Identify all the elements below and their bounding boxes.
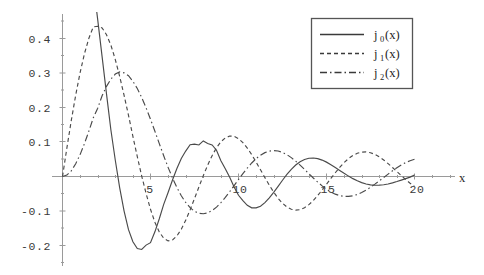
- legend-label-j0-arg: (x): [385, 28, 400, 42]
- legend-label-j2-arg: (x): [385, 66, 400, 80]
- y-tick-label-0: 0.4: [28, 33, 51, 46]
- legend-label-j1-base: j: [373, 47, 377, 61]
- y-tick-label-3: 0.1: [28, 136, 51, 149]
- bessel-plot-figure: 0.4 0.3 0.2 0.1 -0.1 -0.2 5 10 15 20 x j…: [0, 0, 484, 275]
- legend-label-j0-sub: 0: [380, 34, 384, 44]
- y-tick-label-2: 0.2: [28, 102, 51, 115]
- legend-label-j2-base: j: [373, 66, 377, 80]
- legend-label-j1-arg: (x): [385, 47, 400, 61]
- y-tick-label-5: -0.2: [21, 240, 51, 253]
- legend-label-j0-base: j: [373, 28, 377, 42]
- legend: j 0 (x) j 1 (x) j 2 (x): [312, 19, 413, 89]
- y-tick-label-4: -0.1: [21, 205, 51, 218]
- x-tick-label-0: 5: [146, 183, 154, 196]
- y-tick-label-1: 0.3: [28, 67, 51, 80]
- chart-canvas: 0.4 0.3 0.2 0.1 -0.1 -0.2 5 10 15 20 x j…: [0, 0, 484, 275]
- x-tick-label-3: 20: [409, 183, 424, 196]
- legend-label-j1-sub: 1: [380, 53, 384, 63]
- x-axis-label: x: [459, 171, 466, 185]
- legend-label-j2-sub: 2: [380, 72, 384, 82]
